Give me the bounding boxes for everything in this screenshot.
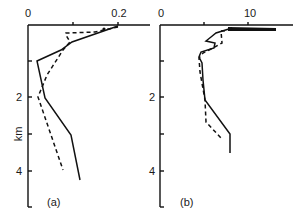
panel-a: 0 0.2 2 4 km (a) [12,7,150,208]
panel-b: 0 10 2 4 (b) [149,7,293,208]
panel-b-surface-spike [228,27,276,31]
panel-a-marker [102,27,105,30]
panel-b-x-label-10: 10 [244,7,256,19]
panel-a-y-label-2: 2 [16,91,22,103]
panel-a-dashed-line [38,27,118,170]
panel-b-y-label-4: 4 [149,165,155,177]
panel-a-x-label-0: 0 [25,7,31,19]
panel-a-y-label-4: 4 [16,165,22,177]
panel-b-x-label-0: 0 [158,7,164,19]
panel-a-label: (a) [47,196,60,208]
panel-a-x-label-0.2: 0.2 [111,7,126,19]
panel-b-y-label-2: 2 [149,91,155,103]
chart-canvas: 0 0.2 2 4 km (a) 0 10 2 4 (b) [0,0,302,217]
panel-b-label: (b) [180,196,193,208]
panel-a-y-axis-title: km [12,127,24,142]
panel-a-solid-line [37,26,118,180]
